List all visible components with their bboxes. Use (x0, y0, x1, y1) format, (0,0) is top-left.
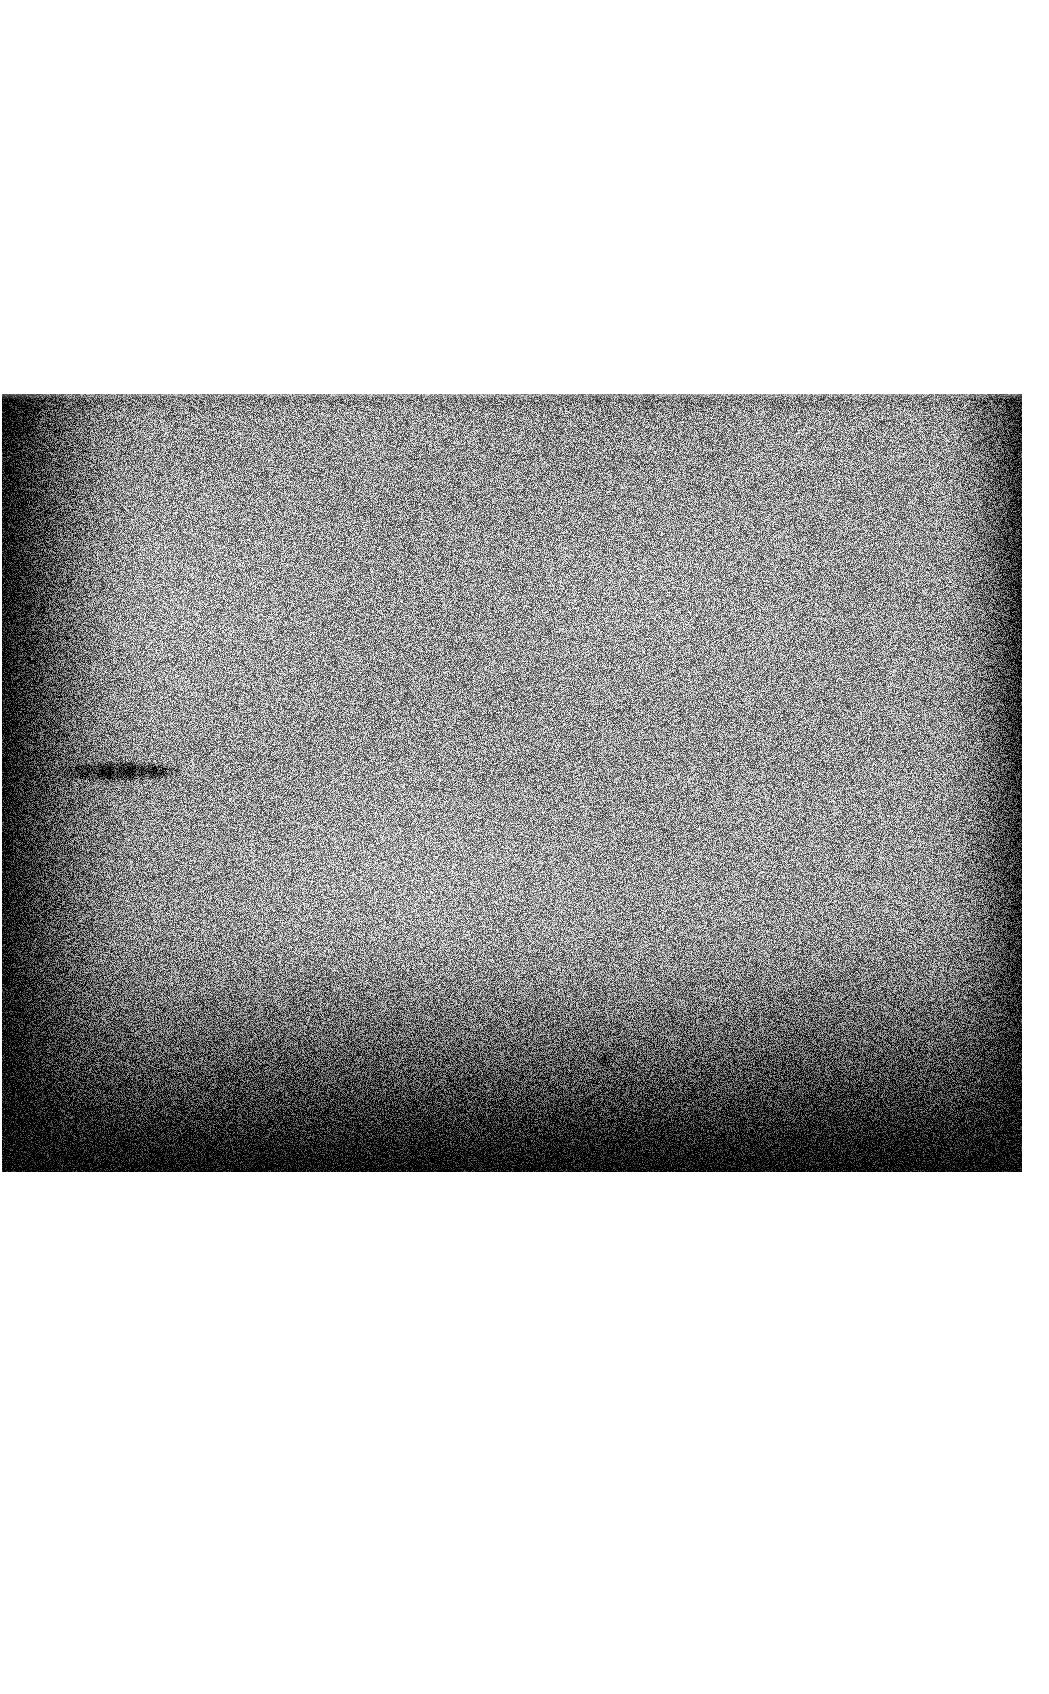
film-exposure-area (2, 394, 1022, 1172)
right-margin (1022, 394, 1049, 1172)
bottom-margin (0, 1172, 1049, 1694)
page-canvas (0, 0, 1049, 1694)
film-grain-canvas (2, 394, 1022, 1172)
top-margin (0, 0, 1049, 394)
